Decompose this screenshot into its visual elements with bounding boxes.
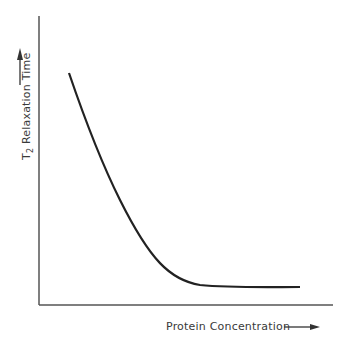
y-axis-label-main: T — [20, 153, 33, 160]
x-axis-label: Protein Concentration — [166, 320, 290, 333]
data-curve — [69, 73, 300, 287]
chart-plot-area — [0, 0, 343, 345]
x-axis-arrow-icon — [310, 324, 320, 330]
y-axis-label-subscript: 2 — [26, 148, 35, 153]
y-axis-label: T2 Relaxation Time — [20, 53, 35, 160]
y-axis-label-rest: Relaxation Time — [20, 53, 33, 148]
